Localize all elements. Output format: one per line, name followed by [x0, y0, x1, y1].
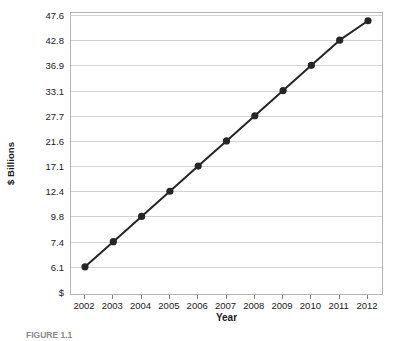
data-point-2007 [223, 137, 230, 144]
y-axis-tick-4: 12.4 [46, 186, 65, 197]
x-axis-tickmark-1 [112, 295, 113, 299]
x-axis-tick-8: 2010 [300, 300, 321, 311]
data-point-2008 [251, 112, 258, 119]
data-point-2012 [364, 17, 371, 24]
y-axis-tick-10: 42.8 [46, 35, 65, 46]
x-axis-tickmark-3 [169, 295, 170, 299]
y-axis-tick-labels: $6.17.49.812.417.121.627.733.136.942.847… [20, 12, 68, 295]
data-point-2003 [110, 238, 117, 245]
y-axis-tick-5: 17.1 [46, 161, 65, 172]
x-axis-tickmark-4 [197, 295, 198, 299]
line-series-layer [71, 13, 382, 294]
x-axis-tick-10: 2012 [356, 300, 377, 311]
figure-caption-label: FIGURE 1.1 [26, 330, 72, 340]
x-axis-tickmark-8 [310, 295, 311, 299]
y-axis-tick-6: 21.6 [46, 135, 65, 146]
x-axis-tick-1: 2003 [102, 300, 123, 311]
data-point-2002 [81, 263, 88, 270]
plot-area [70, 12, 383, 295]
chart-figure: $ Billions $6.17.49.812.417.121.627.733.… [0, 0, 406, 341]
x-axis-tickmark-9 [339, 295, 340, 299]
x-axis-tick-5: 2007 [215, 300, 236, 311]
y-axis-title: $ Billions [2, 108, 20, 218]
y-axis-tick-7: 27.7 [46, 110, 65, 121]
data-point-2011 [336, 37, 343, 44]
x-axis-tickmark-0 [84, 295, 85, 299]
y-axis-tick-9: 36.9 [46, 60, 65, 71]
x-axis-tick-7: 2009 [272, 300, 293, 311]
x-axis-tickmark-7 [282, 295, 283, 299]
y-axis-tick-0: $ [59, 287, 64, 298]
x-axis-tick-6: 2008 [243, 300, 264, 311]
x-axis-tick-0: 2002 [73, 300, 94, 311]
data-point-2010 [308, 62, 315, 69]
x-axis-title: Year [70, 312, 383, 323]
y-axis-tick-1: 6.1 [51, 261, 64, 272]
data-point-2005 [166, 188, 173, 195]
data-point-2006 [195, 162, 202, 169]
x-axis-tickmark-5 [226, 295, 227, 299]
y-axis-tick-11: 47.6 [46, 10, 65, 21]
x-axis-tickmark-6 [254, 295, 255, 299]
y-axis-title-label: $ Billions [6, 141, 17, 184]
figure-caption: FIGURE 1.1 [26, 330, 396, 340]
x-axis-tick-3: 2005 [158, 300, 179, 311]
x-axis-tick-9: 2011 [328, 300, 348, 311]
x-axis-tickmark-2 [141, 295, 142, 299]
y-axis-tick-3: 9.8 [51, 211, 64, 222]
data-point-2004 [138, 213, 145, 220]
y-axis-tick-8: 33.1 [46, 85, 65, 96]
data-point-2009 [280, 87, 287, 94]
x-axis-tick-4: 2006 [187, 300, 208, 311]
x-axis-tick-2: 2004 [130, 300, 151, 311]
y-axis-tick-2: 7.4 [51, 236, 64, 247]
x-axis-tickmark-10 [367, 295, 368, 299]
